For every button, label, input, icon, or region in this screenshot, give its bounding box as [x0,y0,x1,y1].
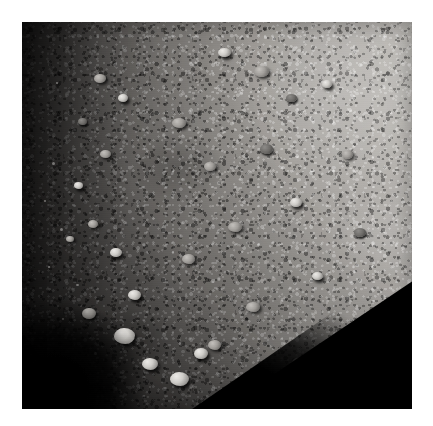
asteroid-image [22,22,412,409]
boulder [218,48,231,57]
boulder [354,228,366,237]
limb-boulder [118,94,128,102]
boulder [254,66,269,77]
boulder [322,80,332,88]
boulder [172,118,186,128]
limb-boulder [78,118,87,125]
limb-boulder [94,74,106,83]
boulder [342,150,353,159]
limb-speck [56,82,58,84]
page-canvas [0,0,433,426]
boulder [204,162,216,171]
boulder [290,198,302,207]
bright-regolith-patch [222,22,412,192]
limb-speck [52,162,55,165]
limb-boulder [100,150,111,158]
boulder [260,144,273,154]
terminator-shadow-pool [22,179,272,409]
boulder [286,94,297,102]
boulder [312,272,323,280]
